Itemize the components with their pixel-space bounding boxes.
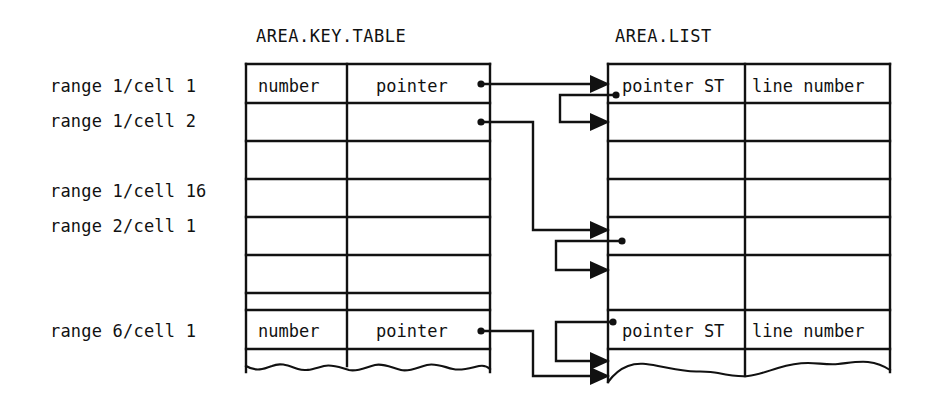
- list-table-cell-line-number-row0: line number: [752, 76, 865, 96]
- connector-key-row0-to-list-row0: [477, 75, 610, 93]
- list-table-cell-line-number-row6: line number: [752, 321, 865, 341]
- connector-list-row0-to-list-row1: [560, 91, 620, 131]
- key-table-cell-number-row0: number: [258, 76, 319, 96]
- connector-key-row1-to-list-row4: [477, 118, 610, 239]
- key-table-cell-pointer-row7: pointer: [376, 321, 448, 341]
- list-table-cell-pointer-st-row6: pointer ST: [622, 321, 724, 341]
- diagram-canvas: AREA.KEY.TABLE AREA.LIST range 1/cell 1 …: [0, 0, 936, 405]
- list-table-torn-edge: [608, 362, 890, 382]
- diagram-linework: [0, 0, 936, 405]
- list-table-cell-pointer-st-row0: pointer ST: [622, 76, 724, 96]
- key-table-cell-number-row7: number: [258, 321, 319, 341]
- key-table-torn-edge: [246, 364, 490, 370]
- key-table-cell-pointer-row0: pointer: [376, 76, 448, 96]
- connector-list-row4-to-list-row5: [556, 237, 626, 279]
